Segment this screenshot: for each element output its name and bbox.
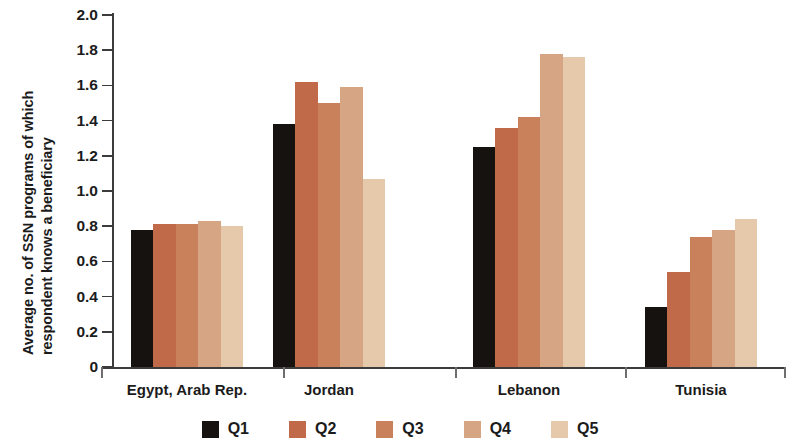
y-axis-tick xyxy=(102,14,112,16)
bar xyxy=(690,237,713,367)
bar xyxy=(518,117,541,367)
y-axis-tick xyxy=(102,331,112,333)
y-axis-tick-label: 0.4 xyxy=(52,289,98,305)
y-axis-tick-label: 0 xyxy=(52,359,98,375)
x-axis-group-tick xyxy=(283,367,285,378)
bar-chart: Average no. of SSN programs of which res… xyxy=(0,0,800,442)
y-axis-tick-label: 1.8 xyxy=(52,42,98,58)
legend-swatch-icon xyxy=(289,421,306,438)
legend-label: Q5 xyxy=(577,421,598,437)
y-axis-tick-label: 1.0 xyxy=(52,183,98,199)
bar xyxy=(221,226,244,367)
bar xyxy=(563,57,586,367)
bar xyxy=(645,307,668,367)
y-axis-title: Average no. of SSN programs of which res… xyxy=(0,0,50,380)
plot-area xyxy=(112,15,784,367)
bar xyxy=(667,272,690,367)
bar xyxy=(176,224,199,367)
y-axis-tick xyxy=(102,225,112,227)
bar xyxy=(363,179,386,367)
y-axis-tick xyxy=(102,85,112,87)
bar xyxy=(340,87,363,367)
bar xyxy=(198,221,221,367)
legend-swatch-icon xyxy=(464,421,481,438)
legend-item[interactable]: Q3 xyxy=(376,421,423,438)
y-axis-tick xyxy=(102,49,112,51)
y-axis-tick-label: 0.6 xyxy=(52,253,98,269)
bar xyxy=(712,230,735,367)
y-axis-tick-labels: 00.20.40.60.81.01.21.41.61.82.0 xyxy=(52,15,98,367)
bar xyxy=(295,82,318,367)
x-axis-line xyxy=(101,367,784,369)
legend-label: Q3 xyxy=(402,421,423,437)
x-axis-category-label: Tunisia xyxy=(611,381,791,398)
y-axis-tick-label: 1.6 xyxy=(52,77,98,93)
y-axis-title-line-1: Average no. of SSN programs of which xyxy=(20,91,36,355)
legend-label: Q2 xyxy=(315,421,336,437)
legend-swatch-icon xyxy=(551,421,568,438)
legend-label: Q4 xyxy=(490,421,511,437)
x-axis-group-tick xyxy=(101,367,103,378)
x-axis-group-tick xyxy=(455,367,457,378)
y-axis-tick-label: 0.2 xyxy=(52,324,98,340)
x-axis-group-tick xyxy=(784,367,786,378)
y-axis-tick xyxy=(102,261,112,263)
y-axis-tick-label: 1.4 xyxy=(52,113,98,129)
y-axis-tick xyxy=(102,296,112,298)
bar xyxy=(473,147,496,367)
y-axis-tick-label: 1.2 xyxy=(52,148,98,164)
bar xyxy=(273,124,296,367)
legend-item[interactable]: Q1 xyxy=(202,421,249,438)
y-axis-tick xyxy=(102,155,112,157)
legend-swatch-icon xyxy=(376,421,393,438)
bar xyxy=(153,224,176,367)
y-axis-tick-label: 0.8 xyxy=(52,218,98,234)
bar xyxy=(495,128,518,367)
legend-item[interactable]: Q4 xyxy=(464,421,511,438)
y-axis-tick xyxy=(102,190,112,192)
bar xyxy=(735,219,758,367)
bar xyxy=(540,54,563,367)
y-axis-tick xyxy=(102,366,112,368)
bar xyxy=(318,103,341,367)
legend-label: Q1 xyxy=(228,421,249,437)
bar xyxy=(131,230,154,367)
y-axis-tick-label: 2.0 xyxy=(52,7,98,23)
legend-item[interactable]: Q5 xyxy=(551,421,598,438)
legend-swatch-icon xyxy=(202,421,219,438)
legend-item[interactable]: Q2 xyxy=(289,421,336,438)
y-axis-line xyxy=(112,13,114,369)
y-axis-tick xyxy=(102,120,112,122)
x-axis-group-tick xyxy=(625,367,627,378)
x-axis-category-label: Lebanon xyxy=(439,381,619,398)
x-axis-category-label: Jordan xyxy=(239,381,419,398)
chart-legend: Q1Q2Q3Q4Q5 xyxy=(0,416,800,442)
